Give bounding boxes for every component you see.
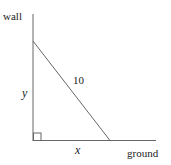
ladder-line (33, 41, 110, 141)
ladder-diagram: wall 10 y x ground (0, 0, 171, 165)
wall-label: wall (3, 10, 22, 22)
hypotenuse-label: 10 (73, 74, 85, 86)
right-angle-marker (34, 133, 42, 141)
x-label: x (74, 143, 81, 157)
ground-label: ground (127, 147, 159, 159)
y-label: y (21, 86, 28, 100)
